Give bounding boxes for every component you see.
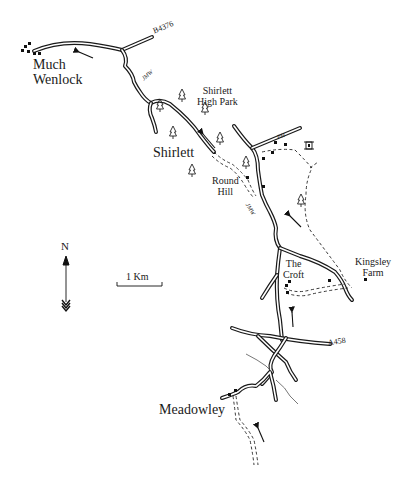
road-jmw-south — [234, 126, 352, 340]
arrow-icon — [258, 428, 264, 442]
scale-label: 1 Km — [126, 272, 149, 283]
tree-icon — [243, 156, 250, 169]
direction-arrows — [79, 52, 301, 442]
place-label-round-hill: Round Hill — [212, 176, 239, 197]
place-label-much-wenlock: Much Wenlock — [33, 58, 82, 87]
label-line: Hill — [212, 187, 239, 198]
tree-icon — [217, 132, 224, 145]
place-label-kingsley-farm: Kingsley Farm — [355, 257, 391, 278]
arrow-icon — [290, 216, 301, 227]
road-much-wenlock — [34, 37, 152, 51]
label-line: Much — [33, 58, 82, 73]
arrow-icon — [292, 312, 293, 327]
place-label-meadowley: Meadowley — [159, 403, 225, 418]
compass-north-label: N — [61, 241, 69, 253]
label-line: Farm — [355, 268, 391, 279]
label-line: Kingsley — [355, 257, 391, 268]
label-line: High Park — [197, 97, 238, 108]
tree-icon — [179, 89, 186, 102]
tree-icon — [170, 126, 177, 139]
north-arrow-icon — [62, 256, 70, 311]
road-a458 — [232, 328, 330, 384]
label-line: The — [283, 259, 304, 270]
label-line: Croft — [283, 270, 304, 281]
scale-bar — [117, 282, 162, 286]
church-icon — [304, 142, 314, 149]
tree-icon — [298, 194, 305, 207]
place-label-shirlett: Shirlett — [153, 146, 194, 161]
place-label-shirlett-high-park: Shirlett High Park — [197, 86, 238, 107]
roads — [34, 37, 352, 400]
label-line: Shirlett — [197, 86, 238, 97]
label-line: Round — [212, 176, 239, 187]
place-label-the-croft: The Croft — [283, 259, 304, 280]
label-line: Wenlock — [33, 73, 82, 88]
tree-icon — [189, 164, 196, 177]
